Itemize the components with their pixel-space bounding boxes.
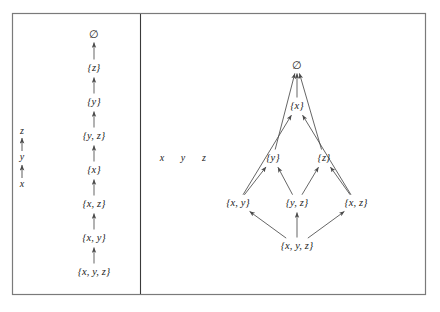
chain-node-empty: ∅ [89, 29, 99, 40]
hasse-node-xz: {x, z} [345, 198, 368, 209]
chain-node-y: {y} [87, 97, 100, 108]
hasse-edge [308, 211, 345, 238]
hasse-node-empty: ∅ [292, 60, 302, 71]
chain-node-xy: {x, y} [82, 233, 106, 244]
hasse-edge [302, 167, 319, 195]
variable-label-y: y [181, 153, 185, 163]
chain-node-yz: {y, z} [83, 131, 105, 142]
hasse-edge [250, 211, 287, 238]
hasse-node-y: {y} [266, 153, 279, 164]
figure-frame [13, 14, 426, 295]
hasse-edge [244, 167, 266, 195]
hasse-node-yz: {y, z} [286, 198, 308, 209]
variable-label-z: z [202, 153, 206, 163]
right-panel-edges [243, 73, 351, 238]
scale-label-x: x [20, 179, 24, 189]
hasse-node-x: {x} [290, 101, 303, 112]
hasse-node-z: {z} [318, 153, 331, 164]
hasse-edge [278, 167, 293, 194]
variable-label-x: x [160, 153, 164, 163]
hasse-node-xyz: {x, y, z} [281, 241, 314, 252]
hasse-edge [275, 73, 295, 149]
chain-node-z: {z} [88, 63, 101, 74]
chain-node-x: {x} [87, 165, 100, 176]
scale-label-z: z [20, 126, 24, 136]
figure-container: ∅{z}{y}{y, z}{x}{x, z}{x, y}{x, y, z} zy… [0, 0, 440, 312]
chain-node-xyz: {x, y, z} [78, 267, 111, 278]
hasse-node-xy: {x, y} [226, 198, 250, 209]
hasse-edge [330, 167, 350, 195]
chain-node-xz: {x, z} [83, 199, 106, 210]
hasse-edge [299, 73, 321, 149]
scale-label-y: y [20, 152, 24, 162]
figure-vector-layer [0, 0, 440, 312]
